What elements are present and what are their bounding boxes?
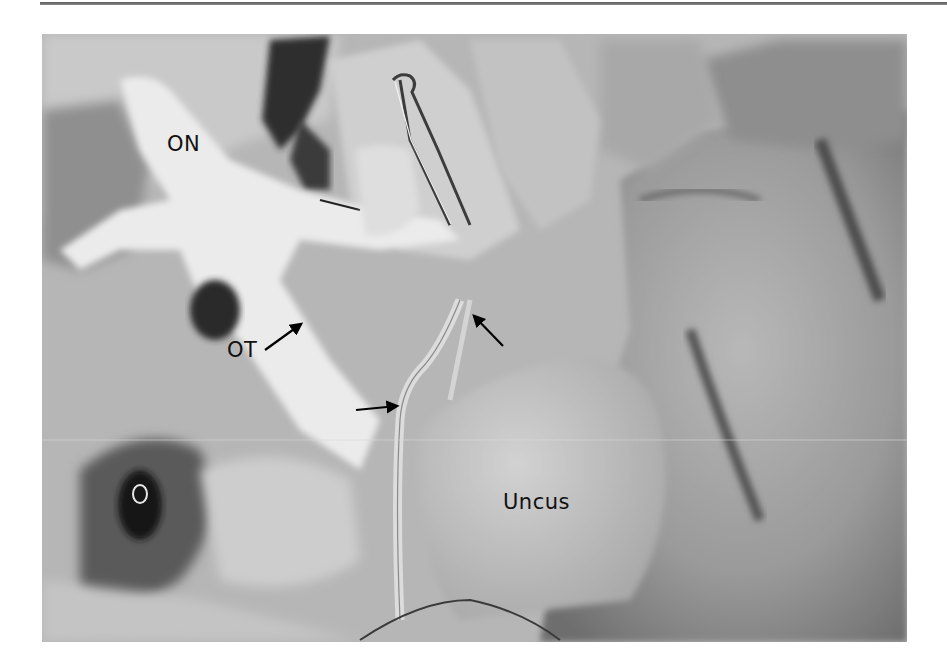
top-rule <box>40 2 947 5</box>
anatomical-photograph <box>42 34 907 642</box>
label-uncus: Uncus <box>503 492 570 513</box>
photo-illustration <box>42 34 907 642</box>
label-optic-tract: OT <box>227 340 257 361</box>
label-optic-nerve: ON <box>167 134 200 155</box>
